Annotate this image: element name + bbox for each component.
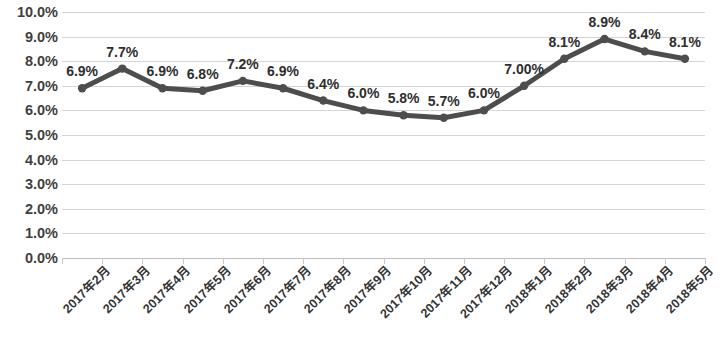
y-axis-tick-label: 3.0% <box>2 177 58 192</box>
data-point-label: 5.7% <box>428 94 460 108</box>
y-axis-tick-label: 6.0% <box>2 103 58 118</box>
data-point-label: 6.9% <box>267 64 299 78</box>
data-point-marker <box>681 55 689 63</box>
x-axis: 2017年2月2017年3月2017年4月2017年5月2017年6月2017年… <box>62 258 705 339</box>
data-point-marker <box>600 35 608 43</box>
data-point-label: 7.00% <box>504 62 544 76</box>
y-axis-tick-label: 1.0% <box>2 226 58 241</box>
line-chart: 0.0%1.0%2.0%3.0%4.0%5.0%6.0%7.0%8.0%9.0%… <box>0 0 723 339</box>
data-point-marker <box>359 106 367 114</box>
data-point-label: 6.0% <box>468 86 500 100</box>
series-line <box>62 12 705 258</box>
data-point-label: 5.8% <box>388 91 420 105</box>
data-point-marker <box>480 106 488 114</box>
y-axis-tick-label: 5.0% <box>2 128 58 143</box>
data-point-marker <box>641 47 649 55</box>
data-point-label: 8.9% <box>589 15 621 29</box>
data-point-marker <box>520 82 528 90</box>
data-point-marker <box>440 114 448 122</box>
data-point-marker <box>399 111 407 119</box>
data-point-label: 7.2% <box>227 57 259 71</box>
data-point-label: 8.4% <box>629 27 661 41</box>
data-point-label: 8.1% <box>548 35 580 49</box>
data-point-marker <box>279 84 287 92</box>
data-point-marker <box>158 84 166 92</box>
y-axis-tick-label: 2.0% <box>2 202 58 217</box>
plot-area: 6.9%7.7%6.9%6.8%7.2%6.9%6.4%6.0%5.8%5.7%… <box>62 12 705 258</box>
data-point-marker <box>78 84 86 92</box>
y-axis-tick-label: 8.0% <box>2 54 58 69</box>
data-point-label: 7.7% <box>106 45 138 59</box>
data-point-label: 6.8% <box>187 67 219 81</box>
data-point-marker <box>198 87 206 95</box>
data-point-label: 6.0% <box>347 86 379 100</box>
data-point-label: 6.9% <box>147 64 179 78</box>
y-axis-tick-label: 0.0% <box>2 251 58 266</box>
y-axis-tick-label: 4.0% <box>2 152 58 167</box>
data-point-label: 8.1% <box>669 35 701 49</box>
data-point-marker <box>118 64 126 72</box>
data-point-label: 6.9% <box>66 64 98 78</box>
data-point-marker <box>560 55 568 63</box>
y-axis-tick-label: 10.0% <box>2 5 58 20</box>
y-axis-tick-label: 7.0% <box>2 79 58 94</box>
data-point-marker <box>319 96 327 104</box>
data-point-label: 6.4% <box>307 77 339 91</box>
y-axis: 0.0%1.0%2.0%3.0%4.0%5.0%6.0%7.0%8.0%9.0%… <box>0 0 58 339</box>
y-axis-tick-label: 9.0% <box>2 29 58 44</box>
data-point-marker <box>239 77 247 85</box>
